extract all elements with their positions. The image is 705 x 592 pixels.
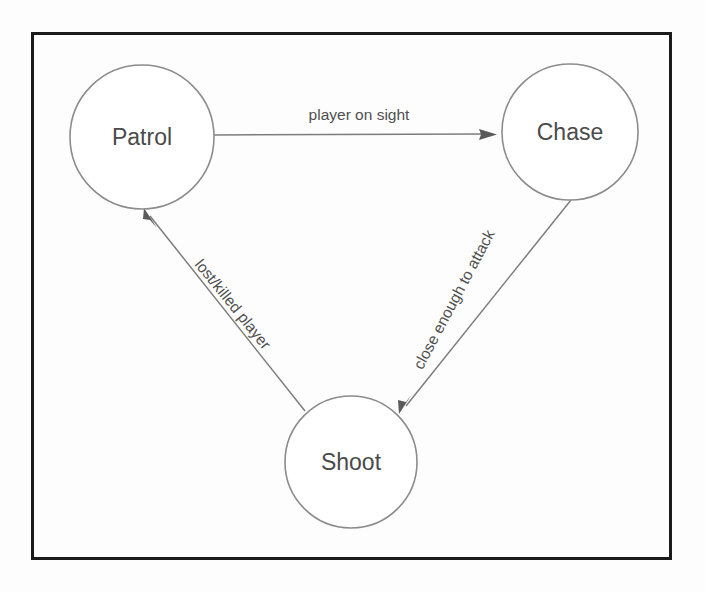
state-diagram-canvas: player on sight close enough to attack l…: [0, 0, 705, 592]
edge-label-close-enough-to-attack: close enough to attack: [410, 227, 498, 372]
state-node-chase[interactable]: Chase: [502, 64, 638, 200]
patrol-label: Patrol: [112, 124, 172, 150]
arrowhead-into-patrol: [143, 208, 157, 228]
state-node-patrol[interactable]: Patrol: [70, 65, 214, 209]
state-node-shoot[interactable]: Shoot: [285, 396, 417, 528]
shoot-label: Shoot: [321, 449, 382, 475]
edge-label-lost-killed-player: lost/killed player: [192, 256, 275, 352]
edge-label-player-on-sight: player on sight: [309, 106, 411, 123]
arrowhead-into-chase: [479, 129, 497, 140]
edge-line-shoot-patrol: [150, 216, 305, 411]
edge-line-patrol-chase: [214, 134, 487, 135]
edge-shoot-to-patrol[interactable]: lost/killed player: [143, 208, 305, 411]
edge-patrol-to-chase[interactable]: player on sight: [214, 106, 497, 140]
arrowhead-into-shoot: [398, 394, 412, 414]
edge-chase-to-shoot[interactable]: close enough to attack: [398, 200, 571, 414]
chase-label: Chase: [537, 119, 603, 145]
diagram-page: player on sight close enough to attack l…: [0, 0, 705, 592]
